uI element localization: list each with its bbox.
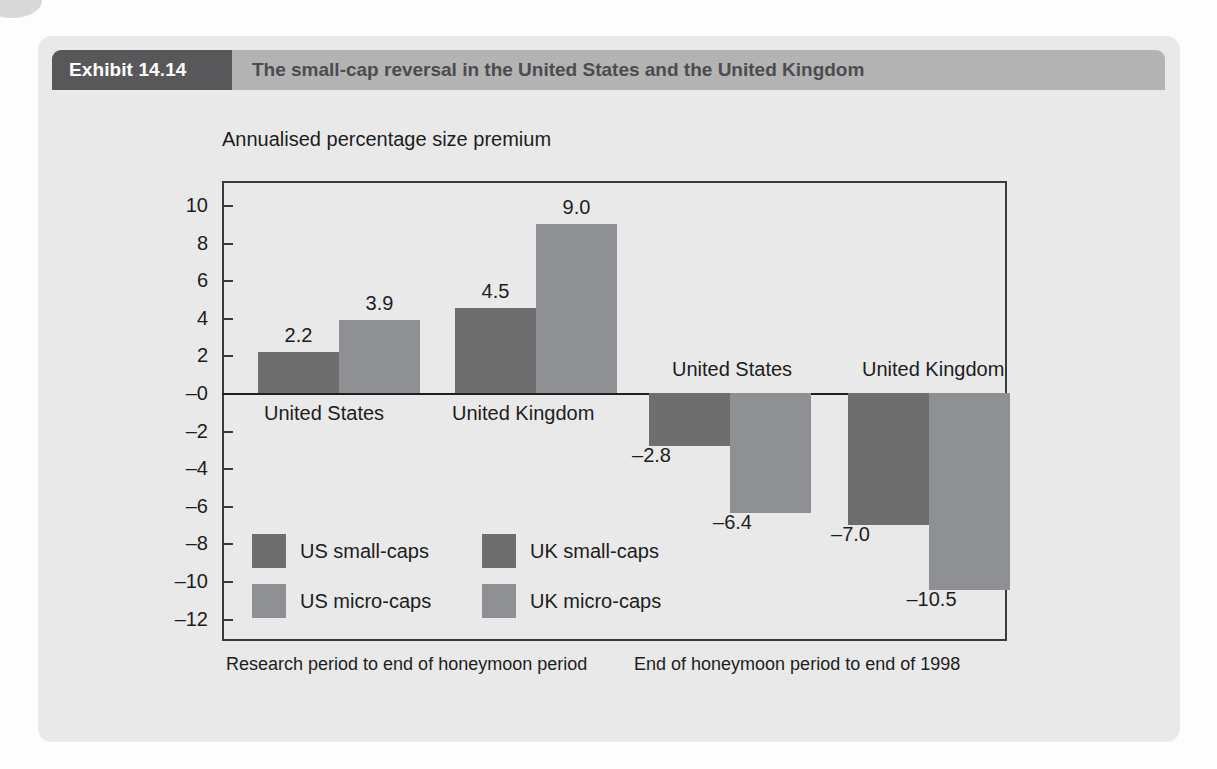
bar-us-small-caps-4 bbox=[649, 393, 730, 446]
y-tick-mark bbox=[222, 431, 233, 433]
bar-value-label: –6.4 bbox=[692, 511, 773, 534]
bar-chart: Annualised percentage size premium 10864… bbox=[0, 0, 1217, 769]
y-tick-label: 8 bbox=[148, 231, 208, 254]
y-tick-mark bbox=[222, 280, 233, 282]
y-tick-mark bbox=[222, 205, 233, 207]
period-caption: End of honeymoon period to end of 1998 bbox=[634, 654, 960, 675]
y-tick-label: –2 bbox=[148, 419, 208, 442]
bar-value-label: 4.5 bbox=[455, 280, 536, 303]
group-label: United Kingdom bbox=[862, 358, 1004, 381]
bar-uk-micro-caps-3 bbox=[536, 224, 617, 393]
y-tick-label: –8 bbox=[148, 532, 208, 555]
legend-item-us-small-caps: US small-caps bbox=[252, 534, 429, 568]
y-tick-label: 4 bbox=[148, 306, 208, 329]
exhibit-page: Exhibit 14.14 The small-cap reversal in … bbox=[0, 0, 1217, 769]
y-tick-label: –12 bbox=[148, 607, 208, 630]
group-label: United States bbox=[264, 402, 384, 425]
y-tick-label: –4 bbox=[148, 457, 208, 480]
legend-swatch bbox=[482, 534, 516, 568]
group-label: United States bbox=[672, 358, 792, 381]
group-label: United Kingdom bbox=[452, 402, 594, 425]
y-tick-mark bbox=[222, 468, 233, 470]
y-tick-mark bbox=[222, 506, 233, 508]
bar-value-label: 2.2 bbox=[258, 324, 339, 347]
bar-value-label: –7.0 bbox=[810, 523, 891, 546]
y-tick-mark bbox=[222, 543, 233, 545]
y-axis-title: Annualised percentage size premium bbox=[222, 128, 551, 151]
y-tick-label: –6 bbox=[148, 494, 208, 517]
legend-item-uk-small-caps: UK small-caps bbox=[482, 534, 659, 568]
bar-us-micro-caps-1 bbox=[339, 320, 420, 393]
bar-uk-small-caps-6 bbox=[848, 393, 929, 525]
y-tick-label: –10 bbox=[148, 570, 208, 593]
legend-swatch bbox=[252, 534, 286, 568]
bar-value-label: –10.5 bbox=[891, 588, 972, 611]
legend-label: US small-caps bbox=[300, 540, 429, 563]
bar-uk-micro-caps-7 bbox=[929, 393, 1010, 590]
y-tick-label: 2 bbox=[148, 344, 208, 367]
legend-label: US micro-caps bbox=[300, 590, 431, 613]
legend-item-uk-micro-caps: UK micro-caps bbox=[482, 584, 661, 618]
legend-item-us-micro-caps: US micro-caps bbox=[252, 584, 431, 618]
legend-label: UK micro-caps bbox=[530, 590, 661, 613]
bar-us-micro-caps-5 bbox=[730, 393, 811, 513]
bar-value-label: –2.8 bbox=[611, 444, 692, 467]
y-tick-mark bbox=[222, 355, 233, 357]
y-tick-mark bbox=[222, 243, 233, 245]
y-tick-label: –0 bbox=[148, 382, 208, 405]
bar-us-small-caps-0 bbox=[258, 352, 339, 393]
period-caption: Research period to end of honeymoon peri… bbox=[226, 654, 587, 675]
legend-swatch bbox=[482, 584, 516, 618]
legend-label: UK small-caps bbox=[530, 540, 659, 563]
bar-value-label: 3.9 bbox=[339, 292, 420, 315]
bar-uk-small-caps-2 bbox=[455, 308, 536, 393]
y-tick-label: 10 bbox=[148, 194, 208, 217]
y-tick-mark bbox=[222, 581, 233, 583]
bar-value-label: 9.0 bbox=[536, 196, 617, 219]
y-tick-mark bbox=[222, 619, 233, 621]
legend-swatch bbox=[252, 584, 286, 618]
y-tick-label: 6 bbox=[148, 269, 208, 292]
y-tick-mark bbox=[222, 318, 233, 320]
